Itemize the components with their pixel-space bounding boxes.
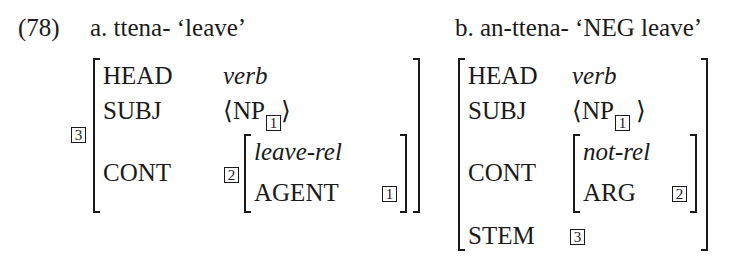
tag-box-subj-np: 1 xyxy=(615,115,630,131)
avm-b-head-feature: HEAD xyxy=(468,63,537,88)
avm-b-cont-type: not-rel xyxy=(583,139,650,164)
avm-b-left-bracket xyxy=(458,58,465,251)
tag-box-cont: 2 xyxy=(224,167,239,183)
avm-b-right-bracket xyxy=(701,58,708,251)
example-a-header: a. ttena- ‘leave’ xyxy=(90,15,246,40)
subj-np: ⟨NP xyxy=(223,97,265,124)
avm-a-right-bracket xyxy=(413,58,420,213)
example-a-gloss: ‘leave’ xyxy=(177,14,246,41)
example-a-label: a. xyxy=(90,14,107,41)
example-b-header: b. an-ttena- ‘NEG leave’ xyxy=(455,15,702,40)
avm-a-subj-value: ⟨NP1⟩ xyxy=(223,98,291,131)
avm-b-cont-feature: CONT xyxy=(468,160,536,185)
avm-a-head-feature: HEAD xyxy=(103,63,172,88)
avm-b-head-value: verb xyxy=(572,63,616,88)
avm-a-head-value: verb xyxy=(223,63,267,88)
subj-np: ⟨NP xyxy=(572,97,614,124)
avm-b-subj-feature: SUBJ xyxy=(468,98,526,123)
example-b-gloss: ‘NEG leave’ xyxy=(575,14,702,41)
avm-a-subj-feature: SUBJ xyxy=(103,98,161,123)
avm-a-cont-feature: CONT xyxy=(103,160,171,185)
avm-b-stem-feature: STEM xyxy=(468,223,535,248)
avm-a-left-bracket xyxy=(93,58,100,213)
avm-a-cont-right-bracket xyxy=(400,134,407,213)
subj-close-angle: ⟩ xyxy=(281,97,291,124)
example-b-form: an-ttena- xyxy=(480,14,569,41)
example-number: (78) xyxy=(18,15,60,40)
subj-close-angle: ⟩ xyxy=(636,97,646,124)
tag-box-agent: 1 xyxy=(382,186,397,202)
tag-box-stem: 3 xyxy=(570,229,585,245)
avm-b-cont-right-bracket xyxy=(690,134,697,213)
avm-b-subj-value: ⟨NP1⟩ xyxy=(572,98,646,131)
tag-box-arg: 2 xyxy=(672,186,687,202)
avm-a-cont-attr: AGENT xyxy=(254,180,339,205)
example-b-label: b. xyxy=(455,14,474,41)
avm-a-cont-type: leave-rel xyxy=(254,139,342,164)
tag-box-subj-np: 1 xyxy=(266,115,281,131)
avm-b-cont-attr: ARG xyxy=(583,180,636,205)
example-a-form: ttena- xyxy=(114,14,171,41)
tag-box-avm-a: 3 xyxy=(71,127,86,143)
avm-a-cont-left-bracket xyxy=(244,134,251,213)
avm-b-cont-left-bracket xyxy=(573,134,580,213)
